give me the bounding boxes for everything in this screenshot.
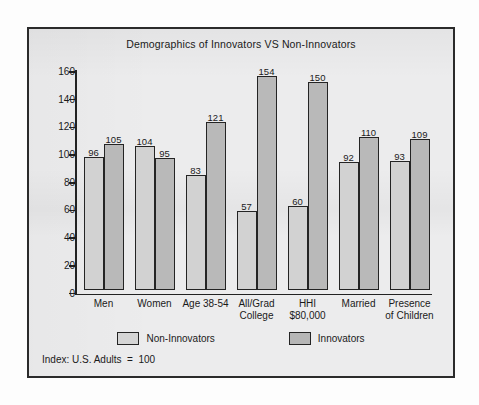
bar-non-innovators[interactable] [135, 146, 155, 290]
bar-innovators[interactable] [359, 137, 379, 289]
legend-label: Innovators [318, 333, 365, 344]
bar-non-innovators[interactable] [390, 161, 410, 290]
y-tick-label: 60 [41, 205, 75, 215]
bar-non-innovators[interactable] [339, 162, 359, 289]
bar-group: 60150HHI$80,000 [288, 29, 328, 376]
y-tick-label: 120 [41, 122, 75, 132]
bar-value-label: 95 [150, 149, 180, 159]
bar-group: 10495Women [135, 29, 175, 376]
y-tick-label: 0 [41, 289, 75, 299]
bar-non-innovators[interactable] [186, 175, 206, 290]
plot-area: 020406080100120140160 96105Men10495Women… [29, 29, 453, 376]
bar-non-innovators[interactable] [84, 157, 104, 290]
bar-value-label: 105 [99, 135, 129, 145]
bar-group: 92110Married [339, 29, 379, 376]
x-category-line: Presence [367, 298, 453, 310]
bar-group: 96105Men [84, 29, 124, 376]
y-axis-line [75, 70, 77, 294]
y-tick-label: 100 [41, 150, 75, 160]
y-tick-label: 160 [41, 67, 75, 77]
bar-innovators[interactable] [155, 158, 175, 290]
bar-value-label: 109 [405, 130, 435, 140]
legend-swatch-icon [117, 332, 139, 345]
bar-value-label: 121 [201, 113, 231, 123]
bar-value-label: 150 [303, 73, 333, 83]
legend-item-non-innovators[interactable]: Non-Innovators [117, 332, 214, 345]
x-category-label: Presenceof Children [367, 298, 453, 322]
bar-innovators[interactable] [308, 82, 328, 290]
bar-group: 57154All/GradCollege [237, 29, 277, 376]
legend-swatch-icon [289, 332, 311, 345]
bar-innovators[interactable] [257, 76, 277, 289]
bar-value-label: 110 [354, 128, 384, 138]
bar-innovators[interactable] [104, 144, 124, 289]
bar-group: 83121Age 38-54 [186, 29, 226, 376]
bar-value-label: 104 [130, 137, 160, 147]
bar-group: 93109Presenceof Children [390, 29, 430, 376]
y-tick-label: 80 [41, 178, 75, 188]
bar-value-label: 154 [252, 67, 282, 77]
chart-card: Demographics of Innovators VS Non-Innova… [27, 27, 455, 378]
y-tick-label: 40 [41, 233, 75, 243]
legend-label: Non-Innovators [146, 333, 214, 344]
bar-innovators[interactable] [206, 122, 226, 290]
bar-non-innovators[interactable] [288, 206, 308, 289]
y-tick-label: 20 [41, 261, 75, 271]
y-tick-label: 140 [41, 95, 75, 105]
legend-item-innovators[interactable]: Innovators [289, 332, 365, 345]
index-footnote: Index: U.S. Adults = 100 [42, 354, 155, 365]
bar-non-innovators[interactable] [237, 211, 257, 290]
x-category-line: of Children [367, 310, 453, 322]
bar-innovators[interactable] [410, 139, 430, 290]
chart-legend: Non-InnovatorsInnovators [29, 332, 453, 345]
